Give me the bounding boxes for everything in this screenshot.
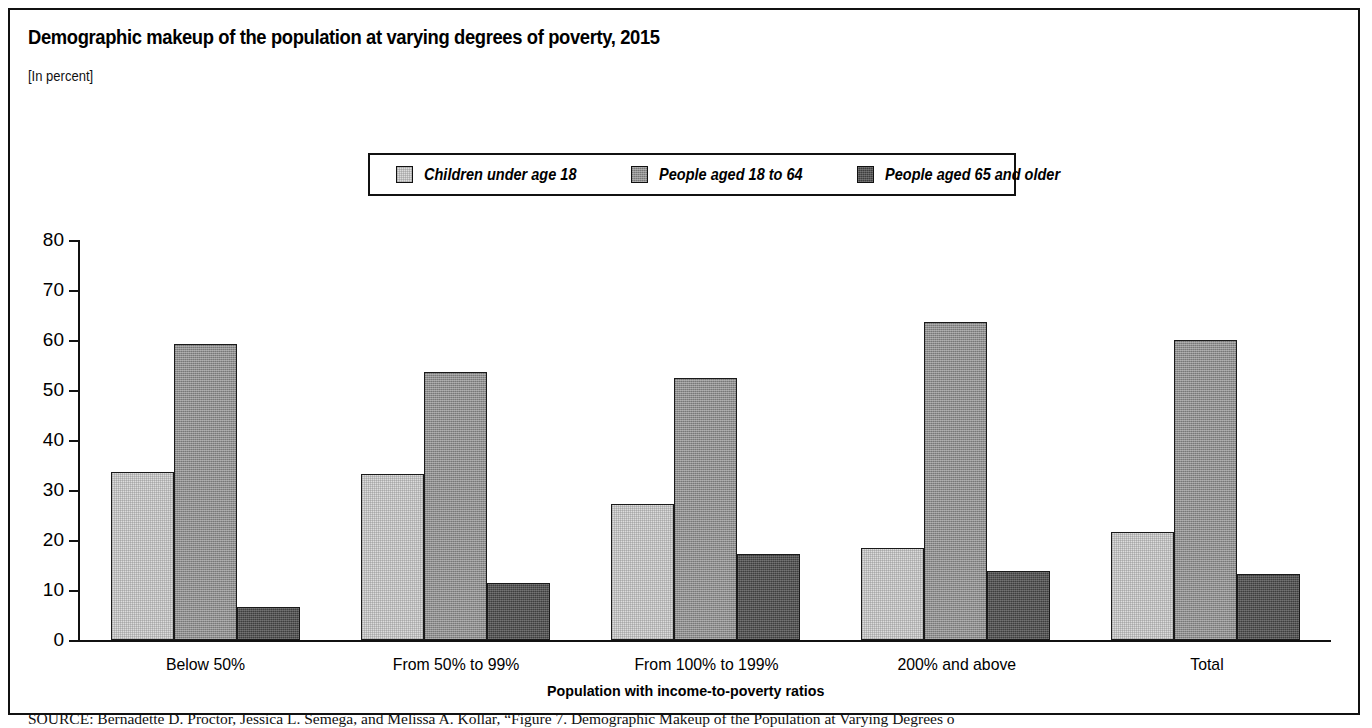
chart-legend: Children under age 18 People aged 18 to … bbox=[368, 153, 1016, 196]
page-title: Demographic makeup of the population at … bbox=[28, 26, 660, 49]
bar[interactable] bbox=[674, 378, 737, 640]
medium-gray-swatch-icon bbox=[631, 166, 648, 183]
y-axis-tick-label: 60 bbox=[43, 329, 64, 351]
x-axis-title-text: Population with income-to-poverty ratios bbox=[547, 682, 824, 700]
x-axis-category-label: Total bbox=[1082, 655, 1332, 681]
source-note: SOURCE: Bernadette D. Proctor, Jessica L… bbox=[28, 710, 1348, 728]
bar[interactable] bbox=[924, 322, 987, 641]
bar-group bbox=[80, 240, 330, 640]
y-axis-tick-label: 30 bbox=[43, 479, 64, 501]
bar-group bbox=[1080, 240, 1330, 640]
legend-item-seniors[interactable]: People aged 65 and older bbox=[857, 165, 1084, 184]
bar[interactable] bbox=[111, 472, 174, 640]
plot-area: 01020304050607080 bbox=[78, 240, 1330, 640]
bar[interactable] bbox=[237, 607, 300, 640]
dark-gray-swatch-icon bbox=[857, 166, 874, 183]
bar[interactable] bbox=[1237, 574, 1300, 640]
y-axis-tick bbox=[69, 340, 78, 342]
bar-group bbox=[580, 240, 830, 640]
y-axis-tick bbox=[69, 590, 78, 592]
y-axis-tick-label: 10 bbox=[43, 579, 64, 601]
x-axis-category-label: 200% and above bbox=[831, 655, 1081, 681]
legend-item-children[interactable]: Children under age 18 bbox=[396, 165, 597, 184]
y-axis-tick bbox=[69, 640, 78, 642]
legend-label-adults: People aged 18 to 64 bbox=[659, 165, 803, 184]
bar-groups bbox=[80, 240, 1330, 640]
bar[interactable] bbox=[737, 554, 800, 641]
x-axis-category-label: From 50% to 99% bbox=[330, 655, 580, 681]
y-axis-tick bbox=[69, 390, 78, 392]
bar[interactable] bbox=[361, 474, 424, 640]
bar[interactable] bbox=[861, 548, 924, 641]
y-axis-tick-label: 0 bbox=[53, 629, 64, 651]
y-axis-tick bbox=[69, 540, 78, 542]
y-axis-tick-label: 80 bbox=[43, 229, 64, 251]
figure-subtitle: [In percent] bbox=[28, 68, 93, 84]
y-axis-tick bbox=[69, 240, 78, 242]
x-axis-line bbox=[78, 640, 1331, 642]
light-gray-swatch-icon bbox=[396, 166, 413, 183]
y-axis-tick bbox=[69, 490, 78, 492]
figure-frame: Demographic makeup of the population at … bbox=[8, 8, 1360, 715]
source-kicker: SOURCE: bbox=[28, 710, 93, 727]
bar[interactable] bbox=[987, 571, 1050, 640]
y-axis-tick-label: 20 bbox=[43, 529, 64, 551]
source-text: Bernadette D. Proctor, Jessica L. Semega… bbox=[93, 710, 954, 727]
bar[interactable] bbox=[1111, 532, 1174, 640]
x-axis-category-label: Below 50% bbox=[80, 655, 330, 681]
bar[interactable] bbox=[1174, 340, 1237, 641]
legend-label-children: Children under age 18 bbox=[424, 165, 577, 184]
bar[interactable] bbox=[424, 372, 487, 640]
y-axis-tick-label: 40 bbox=[43, 429, 64, 451]
bar[interactable] bbox=[174, 344, 237, 641]
bar[interactable] bbox=[611, 504, 674, 641]
bar-group bbox=[830, 240, 1080, 640]
legend-label-seniors: People aged 65 and older bbox=[885, 165, 1060, 184]
y-axis-tick-label: 50 bbox=[43, 379, 64, 401]
x-axis-title: Population with income-to-poverty ratios bbox=[10, 682, 1362, 700]
bar[interactable] bbox=[487, 583, 550, 641]
legend-item-adults[interactable]: People aged 18 to 64 bbox=[631, 165, 822, 184]
y-axis-tick bbox=[69, 290, 78, 292]
y-axis-tick bbox=[69, 440, 78, 442]
y-axis-tick-label: 70 bbox=[43, 279, 64, 301]
bar-group bbox=[330, 240, 580, 640]
x-axis-category-label: From 100% to 199% bbox=[581, 655, 831, 681]
x-axis-category-labels: Below 50%From 50% to 99%From 100% to 199… bbox=[80, 655, 1332, 681]
